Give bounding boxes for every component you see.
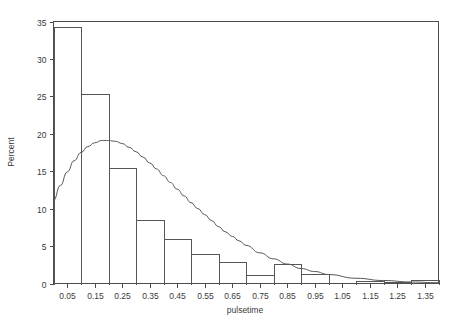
y-axis-title: Percent <box>6 137 16 167</box>
chart-page: 05101520253035 0.050.150.250.350.450.550… <box>0 0 460 334</box>
histogram-chart: 05101520253035 0.050.150.250.350.450.550… <box>0 0 460 334</box>
x-axis-title: pulsetime <box>227 305 264 315</box>
histogram-bar <box>192 255 220 285</box>
x-tick-label: 0.15 <box>87 291 104 301</box>
x-tick-label: 0.75 <box>252 291 269 301</box>
y-tick-label: 20 <box>37 130 47 140</box>
x-tick-label: 1.05 <box>334 291 351 301</box>
y-tick-label: 5 <box>42 242 47 252</box>
x-tick-label: 0.65 <box>224 291 241 301</box>
histogram-bars <box>55 28 440 285</box>
x-tick-label: 0.35 <box>142 291 159 301</box>
x-tick-label: 0.05 <box>59 291 76 301</box>
histogram-bar <box>165 240 192 285</box>
x-tick-label: 1.35 <box>417 291 434 301</box>
fitted-density-curve <box>54 141 439 283</box>
x-tick-label: 0.85 <box>279 291 296 301</box>
y-tick-label: 30 <box>37 55 47 65</box>
histogram-bar <box>220 263 247 285</box>
y-tick-label: 10 <box>37 205 47 215</box>
y-tick-label: 0 <box>42 280 47 290</box>
y-axis-tick-labels: 05101520253035 <box>37 18 47 290</box>
histogram-bar <box>110 169 137 285</box>
x-axis-tick-labels: 0.050.150.250.350.450.550.650.750.850.95… <box>59 291 434 301</box>
y-axis-ticks <box>50 23 54 285</box>
x-tick-label: 0.45 <box>169 291 186 301</box>
x-tick-label: 0.25 <box>114 291 131 301</box>
y-tick-label: 25 <box>37 92 47 102</box>
y-tick-label: 15 <box>37 167 47 177</box>
x-tick-label: 1.25 <box>389 291 406 301</box>
histogram-bar <box>137 221 165 285</box>
histogram-bar <box>82 95 110 285</box>
density-curve <box>54 141 439 283</box>
x-tick-label: 1.15 <box>362 291 379 301</box>
x-tick-label: 0.55 <box>197 291 214 301</box>
x-tick-label: 0.95 <box>307 291 324 301</box>
y-tick-label: 35 <box>37 18 47 28</box>
plot-frame <box>54 22 439 284</box>
